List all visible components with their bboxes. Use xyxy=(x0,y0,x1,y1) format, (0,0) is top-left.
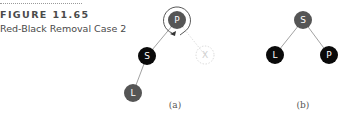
rotation-pointer xyxy=(180,32,184,35)
node-a-p: P xyxy=(168,11,186,29)
diagram-b-caption: (b) xyxy=(297,100,310,110)
node-a-s-label: S xyxy=(144,51,150,61)
diagram-a: P S L X (a) xyxy=(124,7,214,110)
node-b-p-label: P xyxy=(326,50,332,60)
node-a-x-label: X xyxy=(202,50,208,60)
node-b-l-label: L xyxy=(272,50,277,60)
node-a-l-label: L xyxy=(130,88,135,98)
node-a-x-removed: X xyxy=(196,46,214,64)
diagram-b: S L P (b) xyxy=(266,11,338,110)
node-a-p-label: P xyxy=(174,15,180,25)
rotation-arrowhead-icon xyxy=(170,31,176,36)
node-b-l: L xyxy=(266,46,284,64)
diagram-a-caption: (a) xyxy=(169,100,181,110)
tree-diagrams: P S L X (a) S L xyxy=(0,0,355,118)
node-b-p: P xyxy=(320,46,338,64)
node-b-s: S xyxy=(294,11,312,29)
node-a-l: L xyxy=(124,84,142,102)
node-a-s: S xyxy=(138,47,156,65)
node-b-s-label: S xyxy=(300,15,306,25)
